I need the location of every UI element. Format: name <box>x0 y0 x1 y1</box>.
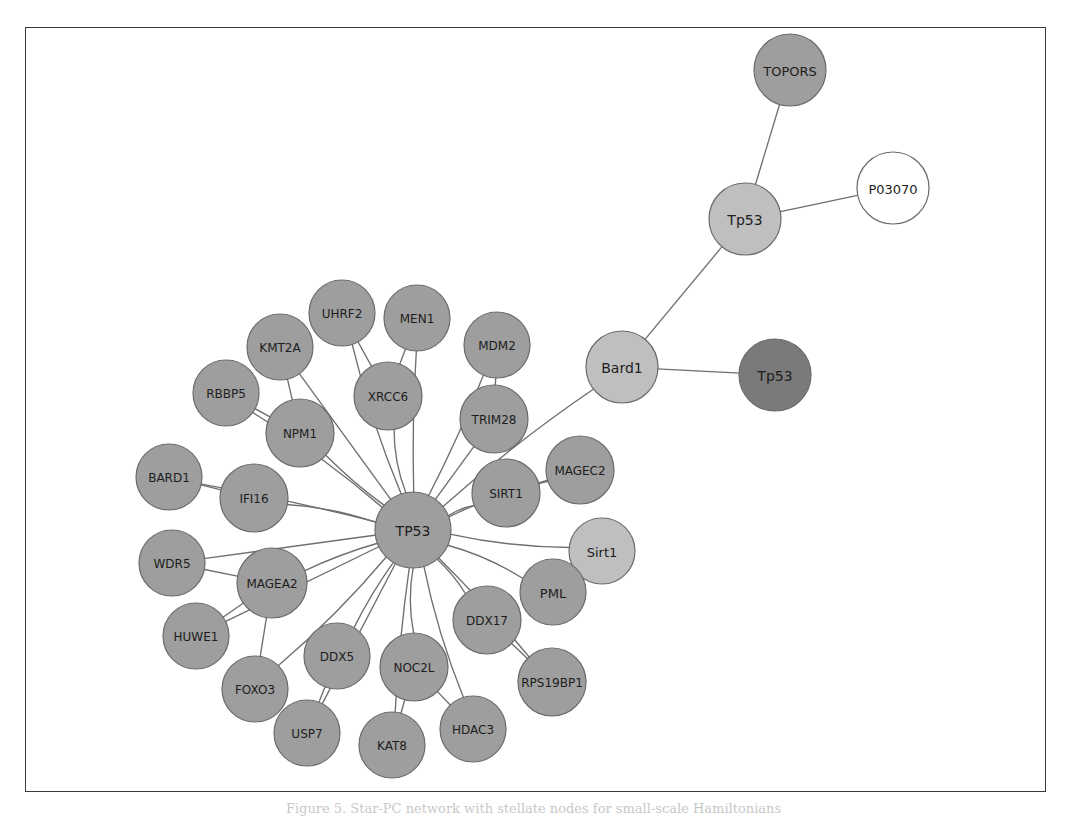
figure-root: TOPORSP03070Tp53Bard1Tp53TP53UHRF2MEN1KM… <box>0 0 1067 817</box>
figure-caption: Figure 5. Star-PC network with stellate … <box>0 799 1067 817</box>
graph-frame-border <box>25 27 1046 792</box>
